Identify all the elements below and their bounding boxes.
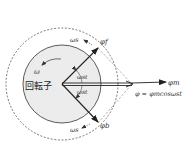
rotating-flux-diagram: ωs φf ω 回転子 ωst ωst φm φ = φmcosωst φb ω… — [0, 0, 194, 146]
rotor-label: 回転子 — [25, 81, 52, 91]
angle-bottom-label: ωst — [77, 88, 88, 95]
diagram-canvas: ωs φf ω 回転子 ωst ωst φm φ = φmcosωst φb ω… — [0, 0, 194, 146]
omega-s-top-arrow — [84, 40, 92, 45]
omega-s-bottom-label: ωs — [70, 126, 79, 134]
phi-f-label: φf — [100, 38, 109, 46]
equation-label: φ = φmcosωst — [135, 90, 182, 98]
resultant-arrowhead — [126, 81, 133, 87]
phi-b-label: φb — [100, 122, 110, 130]
phi-m-label: φm — [168, 79, 180, 87]
phi-m-axis-arrow — [132, 82, 166, 83]
omega-s-top-label: ωs — [70, 36, 79, 44]
angle-top-label: ωst — [77, 73, 88, 80]
guide-line-top — [98, 48, 132, 84]
omega-label: ω — [34, 68, 40, 76]
omega-s-bottom-arrow — [82, 124, 90, 128]
guide-line-bottom — [98, 84, 132, 123]
